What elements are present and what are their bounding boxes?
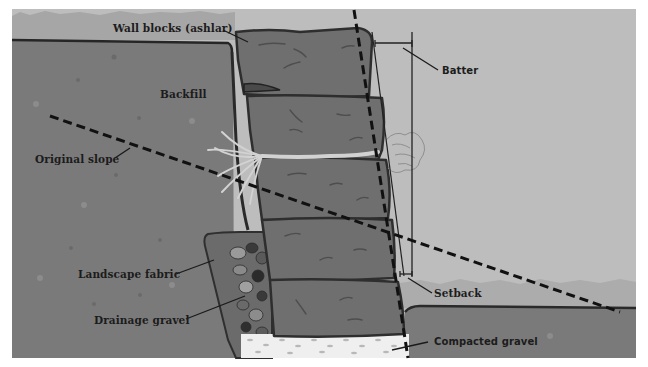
label-setback: Setback (434, 287, 482, 299)
label-landscape-fabric: Landscape fabric (78, 268, 180, 280)
label-original-slope: Original slope (35, 153, 119, 165)
label-wall-blocks: Wall blocks (ashlar) (113, 22, 233, 34)
lower-soil (405, 306, 636, 358)
label-backfill: Backfill (160, 88, 207, 100)
label-batter: Batter (442, 65, 478, 77)
wall-block-5 (270, 279, 404, 336)
retaining-wall-diagram (0, 0, 648, 367)
wall-block-2 (247, 95, 384, 160)
label-compacted-gravel: Compacted gravel (434, 336, 538, 348)
label-drainage-gravel: Drainage gravel (94, 314, 190, 326)
